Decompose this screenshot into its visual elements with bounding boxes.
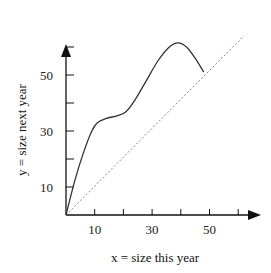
y-axis-label: y = size next year [14,83,29,175]
y-tick-label: 10 [40,180,53,195]
x-tick-label: 10 [88,222,101,237]
y-ticks: 103050 [40,47,74,195]
y-axis-arrow-icon [61,44,71,57]
y-tick-label: 50 [40,68,53,83]
growth-curve [66,43,204,215]
x-axis-label: x = size this year [111,250,200,265]
x-tick-label: 50 [203,222,216,237]
diagonal-reference-line [66,36,244,215]
chart: 103050 103050 x = size this year y = siz… [0,0,271,273]
x-ticks: 103050 [88,209,238,237]
x-axis-arrow-icon [248,210,261,220]
y-tick-label: 30 [40,124,53,139]
x-tick-label: 30 [146,222,159,237]
